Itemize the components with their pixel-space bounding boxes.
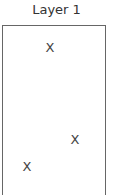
x-mark[interactable]: X xyxy=(46,41,55,55)
x-mark[interactable]: X xyxy=(71,133,80,147)
layer-title: Layer 1 xyxy=(0,2,113,18)
x-mark[interactable]: X xyxy=(23,160,32,174)
layer-panel: Layer 1 X X X xyxy=(0,0,115,195)
